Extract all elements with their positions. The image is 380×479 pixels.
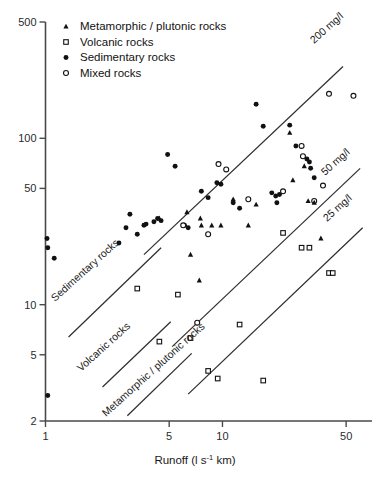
- legend-item-label: Metamorphic / plutonic rocks: [80, 20, 227, 32]
- point-metamorphic: [290, 177, 295, 182]
- point-metamorphic: [199, 222, 204, 227]
- point-volcanic: [281, 231, 286, 236]
- point-metamorphic: [246, 222, 251, 227]
- point-volcanic: [64, 40, 69, 45]
- x-axis-title-post: km): [213, 454, 236, 466]
- label-25-mgl: 25 mg/l: [320, 192, 354, 224]
- y-tick-label: 5: [30, 349, 36, 361]
- legend-item-label: Volcanic rocks: [80, 36, 154, 48]
- axes-group: 251050100500151050: [18, 16, 372, 442]
- point-mixed: [299, 143, 304, 148]
- iso-line: [69, 248, 162, 337]
- scatter-plot-figure: 251050100500151050 200 mg/l50 mg/l25 mg/…: [0, 0, 380, 479]
- x-axis-title-superscript: -1: [207, 453, 214, 462]
- point-sedimentary: [293, 143, 298, 148]
- point-sedimentary: [45, 236, 50, 241]
- point-metamorphic: [63, 24, 68, 29]
- iso-line: [144, 67, 343, 255]
- label-50-mgl: 50 mg/l: [318, 146, 352, 178]
- point-volcanic: [299, 245, 304, 250]
- x-axis-title: Runoff (l s-1 km): [154, 453, 235, 466]
- point-sedimentary: [237, 206, 242, 211]
- y-tick-label: 2: [30, 415, 36, 427]
- point-metamorphic: [287, 130, 292, 135]
- legend-item: Mixed rocks: [64, 67, 142, 79]
- point-sedimentary: [254, 102, 259, 107]
- point-sedimentary: [135, 232, 140, 237]
- point-volcanic: [307, 245, 312, 250]
- chart-root: 251050100500151050 200 mg/l50 mg/l25 mg/…: [0, 0, 380, 479]
- point-volcanic: [176, 292, 181, 297]
- point-volcanic: [330, 271, 335, 276]
- point-volcanic: [157, 339, 162, 344]
- point-sedimentary: [45, 245, 50, 250]
- point-sedimentary: [45, 393, 50, 398]
- x-axis-title-pre: Runoff (l s: [154, 454, 206, 466]
- point-volcanic: [261, 378, 266, 383]
- point-mixed: [206, 232, 211, 237]
- point-mixed: [300, 154, 305, 159]
- point-mixed: [224, 167, 229, 172]
- point-metamorphic: [209, 222, 214, 227]
- point-mixed: [281, 189, 286, 194]
- point-sedimentary: [144, 222, 149, 227]
- point-volcanic: [206, 369, 211, 374]
- point-sedimentary: [269, 190, 274, 195]
- point-mixed: [181, 223, 186, 228]
- point-sedimentary: [127, 212, 132, 217]
- point-sedimentary: [186, 225, 191, 230]
- x-tick-label: 5: [166, 430, 172, 442]
- point-sedimentary: [218, 182, 223, 187]
- point-sedimentary: [287, 123, 292, 128]
- point-metamorphic: [197, 278, 202, 283]
- point-sedimentary: [199, 189, 204, 194]
- legend-item: Metamorphic / plutonic rocks: [63, 20, 226, 32]
- legend-item-label: Sedimentary rocks: [80, 51, 175, 63]
- point-mixed: [216, 162, 221, 167]
- y-tick-label: 100: [18, 132, 36, 144]
- point-sedimentary: [273, 194, 278, 199]
- point-metamorphic: [198, 216, 203, 221]
- point-metamorphic: [306, 198, 311, 203]
- legend-item: Volcanic rocks: [64, 36, 154, 48]
- point-volcanic: [237, 322, 242, 327]
- x-tick-label: 10: [216, 430, 228, 442]
- point-sedimentary: [173, 164, 178, 169]
- point-sedimentary: [308, 166, 313, 171]
- y-tick-label: 500: [18, 16, 36, 28]
- point-metamorphic: [254, 202, 259, 207]
- point-sedimentary: [261, 124, 266, 129]
- point-sedimentary: [206, 195, 211, 200]
- point-sedimentary: [312, 175, 317, 180]
- label-sedimentary-rocks: Sedimentary rocks: [48, 236, 121, 303]
- legend-item: Sedimentary rocks: [64, 51, 176, 63]
- point-mixed: [327, 91, 332, 96]
- point-sedimentary: [64, 55, 69, 60]
- point-volcanic: [135, 286, 140, 291]
- point-metamorphic: [231, 196, 236, 201]
- iso-line: [188, 228, 363, 394]
- label-200-mgl: 200 mg/l: [307, 10, 345, 46]
- x-tick-label: 50: [340, 430, 352, 442]
- legend-group: Metamorphic / plutonic rocksVolcanic roc…: [63, 20, 226, 79]
- x-tick-label: 1: [42, 430, 48, 442]
- point-mixed: [351, 93, 356, 98]
- point-sedimentary: [165, 152, 170, 157]
- point-sedimentary: [274, 200, 279, 205]
- y-tick-label: 50: [24, 182, 36, 194]
- point-metamorphic: [318, 236, 323, 241]
- point-mixed: [64, 71, 69, 76]
- point-sedimentary: [151, 219, 156, 224]
- y-tick-label: 10: [24, 299, 36, 311]
- legend-item-label: Mixed rocks: [80, 67, 142, 79]
- point-metamorphic: [218, 222, 223, 227]
- point-sedimentary: [52, 256, 57, 261]
- point-sedimentary: [307, 160, 312, 165]
- point-metamorphic: [188, 252, 193, 257]
- point-mixed: [246, 197, 251, 202]
- point-sedimentary: [124, 225, 129, 230]
- point-mixed: [321, 183, 326, 188]
- point-metamorphic: [302, 163, 307, 168]
- label-volcanic-rocks: Volcanic rocks: [74, 320, 132, 374]
- x-axis-title-group: Runoff (l s-1 km): [154, 453, 235, 466]
